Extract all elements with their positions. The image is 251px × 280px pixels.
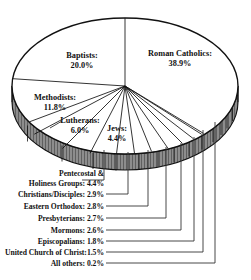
label-roman-catholics-line2: 38.9% <box>169 59 192 68</box>
label-baptists-line2: 20.0% <box>71 61 94 70</box>
callout-label-ucc: United Church of Christ:1.5% <box>5 248 104 257</box>
pie-chart-svg: Roman Catholics: 38.9% Baptists: 20.0% M… <box>0 0 251 280</box>
label-jews-line2: 4.4% <box>108 134 127 143</box>
callout-label-mormons: Mormons: 2.6% <box>51 226 104 235</box>
callout-label-pentecostal-line2: Holiness Groups: 4.4% <box>29 179 104 188</box>
callout-label-pentecostal-line1: Pentecostal & <box>59 169 104 178</box>
callout-label-christians: Christians/Disciples: 2.9% <box>18 190 104 199</box>
label-methodists-line2: 11.8% <box>44 103 66 112</box>
callout-label-presbyterians: Presbyterians: 2.7% <box>38 214 104 223</box>
callout-labels: Pentecostal & Holiness Groups: 4.4% Chri… <box>5 169 104 268</box>
callout-label-all-others: All others: 0.2% <box>51 259 104 268</box>
pie-chart-figure: Roman Catholics: 38.9% Baptists: 20.0% M… <box>0 0 251 280</box>
label-lutherans-line2: 6.0% <box>71 126 90 135</box>
label-methodists-line1: Methodists: <box>34 93 76 102</box>
label-roman-catholics-line1: Roman Catholics: <box>148 49 212 58</box>
label-lutherans-line1: Lutherans: <box>60 116 100 125</box>
callout-label-episcopalians: Episcopalians: 1.8% <box>38 237 104 246</box>
label-jews-line1: Jews: <box>107 124 127 133</box>
label-baptists-line1: Baptists: <box>66 51 98 60</box>
callout-label-eastern-orthodox: Eastern Orthodox: 2.8% <box>24 202 104 211</box>
